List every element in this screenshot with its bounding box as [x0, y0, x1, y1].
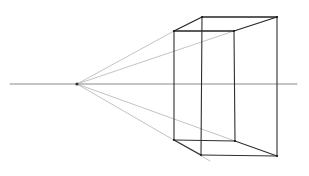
bottom-front-edge [174, 140, 235, 141]
guideline-2 [77, 84, 235, 141]
vertical-back-left-edge [201, 17, 202, 155]
bottom-right-edge [235, 141, 277, 156]
guideline-1 [77, 31, 234, 84]
perspective-box [173, 16, 278, 157]
vertex-top-front-right [233, 30, 235, 32]
bottom-back-edge [201, 155, 277, 156]
vanishing-point [75, 82, 78, 85]
top-left-edge [174, 17, 202, 31]
guideline-0 [77, 31, 174, 84]
vertex-top-front-left [173, 30, 175, 32]
vertical-front-right-edge [234, 31, 235, 141]
bottom-left-edge [174, 140, 201, 155]
vertex-top-back-left [201, 16, 203, 18]
vertex-bottom-back-left [200, 154, 202, 156]
vanishing-guidelines [77, 31, 235, 161]
vertex-bottom-back-right [276, 155, 278, 157]
top-right-edge [234, 17, 277, 31]
vertex-bottom-front-left [173, 139, 175, 141]
perspective-drawing [0, 0, 309, 176]
vertex-bottom-front-right [234, 140, 236, 142]
vertex-top-back-right [276, 16, 278, 18]
